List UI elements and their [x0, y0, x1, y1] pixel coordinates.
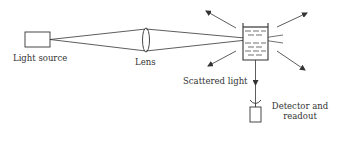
light-source-label: Light source — [13, 53, 67, 63]
arrow-lower-left-icon — [208, 51, 236, 66]
scattered-light-label: Scattered light — [183, 76, 248, 86]
detector-label: Detector and readout — [268, 101, 332, 121]
light-beam-diverging — [50, 29, 146, 51]
arrow-upper-right-icon — [277, 13, 307, 27]
detector-icon — [250, 100, 261, 122]
detector-label-line2: readout — [268, 111, 332, 121]
light-scattering-diagram — [0, 0, 343, 146]
detector-label-line1: Detector and — [268, 101, 332, 111]
lens-label: Lens — [135, 57, 156, 67]
light-source-icon — [25, 32, 50, 47]
sample-cuvette-icon — [243, 23, 268, 60]
arrow-lower-right-icon — [277, 51, 305, 70]
arrow-upper-left-icon — [206, 11, 236, 28]
lens-icon — [143, 28, 150, 52]
